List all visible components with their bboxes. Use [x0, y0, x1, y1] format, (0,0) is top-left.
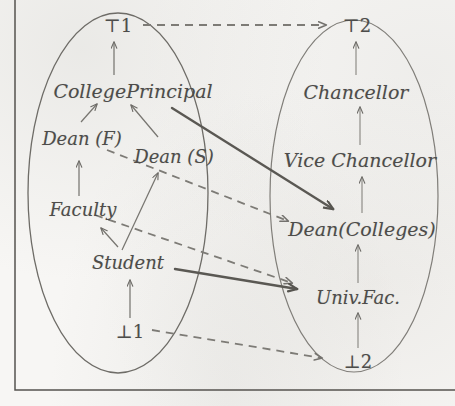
- node-univ-fac: Univ.Fac.: [316, 289, 400, 307]
- node-dean-f: Dean (F): [42, 130, 122, 148]
- left-lattice-boundary: [28, 13, 208, 373]
- node-chancellor: Chancellor: [304, 83, 409, 102]
- edge-deanf-to-principal: [81, 104, 97, 122]
- node-top-2: ⊤2: [343, 17, 371, 35]
- node-dean-colleges: Dean(Colleges): [288, 220, 435, 239]
- figure-canvas: ⊤1 CollegePrincipal Dean (F) Dean (S) Fa…: [0, 0, 455, 406]
- node-dean-s: Dean (S): [134, 148, 214, 166]
- node-vice-chancellor: Vice Chancellor: [284, 151, 436, 170]
- edge-student-to-deans: [122, 173, 158, 250]
- node-student: Student: [92, 254, 164, 272]
- right-lattice-boundary: [270, 20, 438, 372]
- cross-lattice-solid-edges: [172, 108, 333, 289]
- node-bottom-1: ⊥1: [116, 323, 144, 341]
- node-top-1: ⊤1: [104, 17, 132, 35]
- node-faculty: Faculty: [50, 201, 117, 219]
- node-bottom-2: ⊥2: [344, 353, 372, 371]
- edge-bottom1-to-bottom2: [152, 330, 322, 358]
- page-frame: [15, 0, 455, 390]
- edge-student-to-faculty: [101, 228, 118, 247]
- edge-deans-to-principal: [131, 105, 158, 137]
- node-college-principal: CollegePrincipal: [53, 82, 212, 101]
